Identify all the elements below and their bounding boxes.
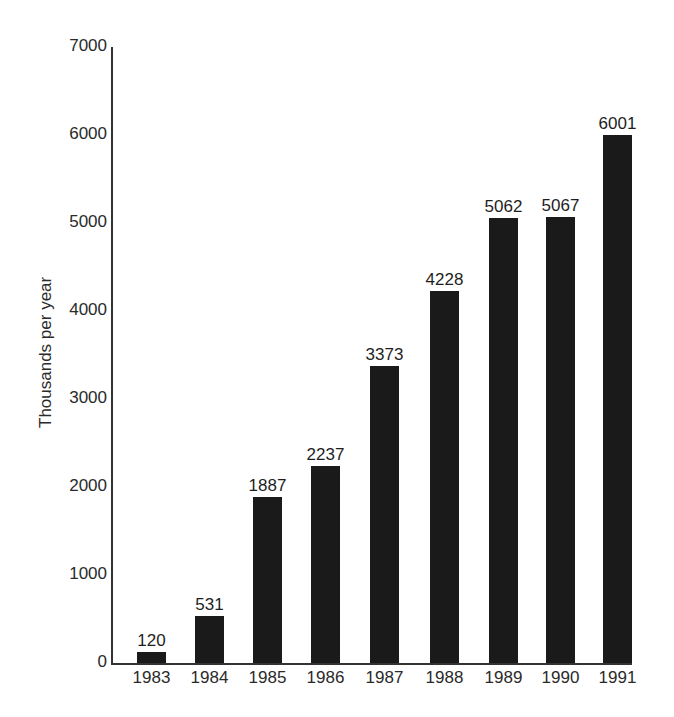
x-tick-label: 1988 bbox=[417, 668, 473, 688]
bar-value-label: 5067 bbox=[531, 196, 591, 216]
bar-1990 bbox=[546, 217, 575, 663]
bar-1989 bbox=[489, 218, 518, 663]
y-tick-label: 5000 bbox=[37, 212, 107, 232]
bar-chart: Thousands per year 010002000300040005000… bbox=[0, 0, 674, 717]
bar-value-label: 531 bbox=[180, 595, 240, 615]
x-tick-label: 1990 bbox=[533, 668, 589, 688]
bar-value-label: 4228 bbox=[415, 270, 475, 290]
x-tick-label: 1985 bbox=[240, 668, 296, 688]
y-tick-label: 3000 bbox=[37, 388, 107, 408]
bar-value-label: 6001 bbox=[588, 114, 648, 134]
x-axis-line bbox=[111, 663, 632, 665]
bar-1991 bbox=[603, 135, 632, 663]
x-tick-label: 1989 bbox=[476, 668, 532, 688]
y-tick-label: 4000 bbox=[37, 300, 107, 320]
x-tick-label: 1991 bbox=[590, 668, 646, 688]
x-tick-label: 1983 bbox=[124, 668, 180, 688]
y-tick-label: 0 bbox=[37, 652, 107, 672]
x-tick-label: 1986 bbox=[298, 668, 354, 688]
y-tick-label: 1000 bbox=[37, 564, 107, 584]
bar-value-label: 1887 bbox=[238, 476, 298, 496]
bar-value-label: 5062 bbox=[474, 197, 534, 217]
bar-1985 bbox=[253, 497, 282, 663]
x-tick-label: 1984 bbox=[182, 668, 238, 688]
bar-1987 bbox=[370, 366, 399, 663]
bar-value-label: 2237 bbox=[296, 445, 356, 465]
y-tick-label: 7000 bbox=[37, 36, 107, 56]
x-tick-label: 1987 bbox=[357, 668, 413, 688]
bar-1986 bbox=[311, 466, 340, 663]
bar-value-label: 120 bbox=[122, 631, 182, 651]
y-tick-label: 2000 bbox=[37, 476, 107, 496]
y-axis-line bbox=[111, 47, 113, 663]
bar-1988 bbox=[430, 291, 459, 663]
bar-value-label: 3373 bbox=[355, 345, 415, 365]
bar-1984 bbox=[195, 616, 224, 663]
y-tick-label: 6000 bbox=[37, 124, 107, 144]
bar-1983 bbox=[137, 652, 166, 663]
